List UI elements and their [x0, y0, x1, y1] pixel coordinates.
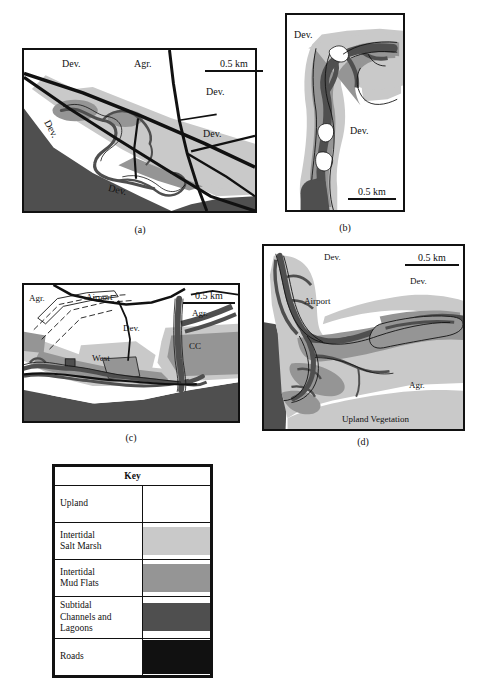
panel-caption-a: (a) — [118, 224, 162, 235]
key-row-salt-marsh: Intertidal Salt Marsh — [55, 523, 211, 560]
key-row-subtidal: Subtidal Channels and Lagoons — [55, 597, 211, 639]
key-row-mud-flats: Intertidal Mud Flats — [55, 560, 211, 597]
map-panel-c-graphic — [24, 285, 238, 421]
scalebar-panel-d: 0.5 km — [405, 252, 459, 266]
map-panel-c — [22, 283, 240, 423]
map-panel-d-graphic — [264, 246, 463, 429]
scalebar-label-a: 0.5 km — [205, 58, 263, 69]
key-swatch-upland — [143, 490, 210, 518]
scalebar-label-b: 0.5 km — [348, 186, 396, 197]
key-swatch-roads — [143, 640, 210, 674]
map-panel-b — [285, 13, 405, 212]
panel-caption-c: (c) — [109, 432, 153, 443]
scalebar-panel-c: 0.5 km — [183, 290, 235, 304]
key-label-mud-flats-line2: Mud Flats — [60, 578, 99, 588]
key-legend: Key Upland Intertidal Salt Marsh In — [52, 464, 213, 678]
key-swatch-subtidal-cell — [143, 597, 211, 639]
key-swatch-salt-marsh-cell — [143, 523, 211, 560]
scalebar-panel-a: 0.5 km — [205, 58, 263, 72]
key-swatch-roads-cell — [143, 638, 211, 675]
key-swatch-mud-flats-cell — [143, 560, 211, 597]
key-swatch-salt-marsh — [143, 527, 210, 555]
key-label-subtidal: Subtidal Channels and Lagoons — [55, 597, 143, 639]
key-title: Key — [55, 467, 211, 486]
key-label-salt-marsh-line1: Intertidal — [60, 530, 95, 540]
scalebar-rule-d — [405, 264, 459, 266]
key-swatch-mud-flats — [143, 564, 210, 592]
key-label-salt-marsh-line2: Salt Marsh — [60, 541, 101, 551]
key-row-roads: Roads — [55, 638, 211, 675]
panel-caption-d: (d) — [341, 436, 385, 447]
panel-caption-b: (b) — [323, 222, 367, 233]
figure-root: 0.5 km Dev. Agr. Dev. Dev. Dev. Dev. (a) — [0, 0, 480, 686]
map-panel-b-graphic — [287, 15, 403, 210]
map-panel-a-graphic — [24, 50, 255, 211]
key-label-subtidal-line2: Channels and — [60, 612, 111, 622]
key-label-roads: Roads — [55, 638, 143, 675]
scalebar-rule-b — [348, 198, 396, 200]
scalebar-panel-b: 0.5 km — [348, 186, 396, 200]
scalebar-rule-c — [183, 302, 235, 304]
key-label-subtidal-line3: Lagoons — [60, 623, 93, 633]
key-label-mud-flats-line1: Intertidal — [60, 567, 95, 577]
scalebar-rule-a — [205, 70, 263, 72]
scalebar-label-c: 0.5 km — [183, 290, 235, 301]
scalebar-label-d: 0.5 km — [405, 252, 459, 263]
key-title-row: Key — [55, 467, 211, 486]
key-label-salt-marsh: Intertidal Salt Marsh — [55, 523, 143, 560]
key-label-subtidal-line1: Subtidal — [60, 600, 92, 610]
key-swatch-subtidal — [143, 603, 210, 631]
key-swatch-upland-cell — [143, 486, 211, 523]
key-label-upland: Upland — [55, 486, 143, 523]
map-panel-a — [22, 48, 257, 213]
key-row-upland: Upland — [55, 486, 211, 523]
map-panel-d — [262, 244, 465, 431]
key-label-mud-flats: Intertidal Mud Flats — [55, 560, 143, 597]
